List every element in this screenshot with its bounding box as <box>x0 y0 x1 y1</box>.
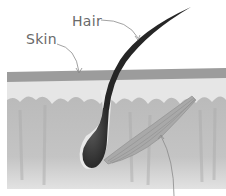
hair-leader-line <box>101 20 138 38</box>
skin-cross-section-diagram <box>0 0 226 196</box>
hair-label: Hair <box>72 14 102 28</box>
skin-label: Skin <box>26 32 57 46</box>
skin-leader-line <box>57 44 79 72</box>
